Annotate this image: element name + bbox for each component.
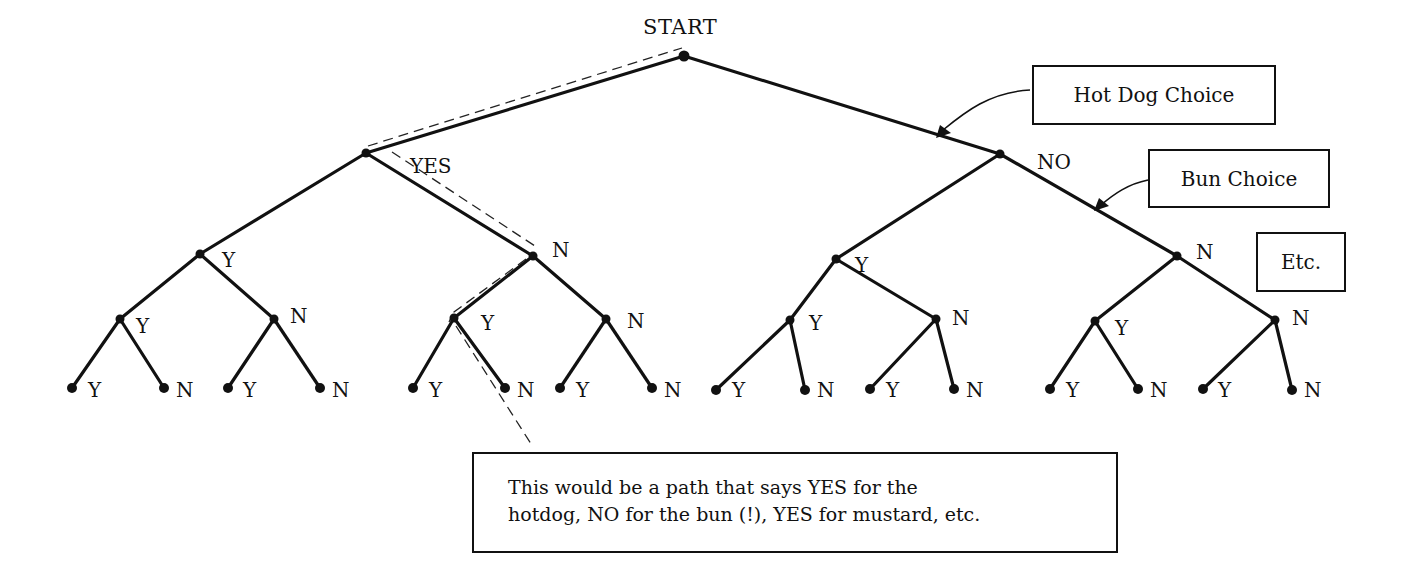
branch-label: N [290,306,308,326]
branch-label: Y [855,255,868,275]
branch-label: N [952,308,970,328]
leaf-label: N [966,380,984,400]
hot-dog-choice-box: Hot Dog Choice [1032,65,1276,125]
branch-label: N [1292,308,1310,328]
note-line-1: This would be a path that says YES for t… [508,474,1096,501]
branch-label: N [627,311,645,331]
branch-label: Y [136,316,149,336]
no-label: NO [1037,152,1071,172]
node-start [679,51,690,62]
leaf-label: N [1150,380,1168,400]
leaf-label: Y [1218,380,1231,400]
bun-arrow-icon [1101,180,1148,205]
leaf-label: Y [243,380,256,400]
leaf-label: N [1304,380,1322,400]
node-no [996,150,1005,159]
hot-dog-arrow-icon [943,90,1030,130]
branch-label: N [552,240,570,260]
start-label: START [643,17,717,38]
branch-label: Y [222,250,235,270]
branch-label: Y [1115,318,1128,338]
leaf-label: N [817,380,835,400]
note-line-2: hotdog, NO for the bun (!), YES for must… [508,501,1096,528]
leaf-label: Y [886,380,899,400]
leaf-label: Y [429,380,442,400]
leaf-label: Y [1066,380,1079,400]
leaf-label: N [332,380,350,400]
branch-label: Y [481,313,494,333]
branch-label: N [1196,242,1214,262]
leaf-label: Y [88,380,101,400]
branch-label: Y [809,313,822,333]
leaf-label: Y [732,380,745,400]
leaf-label: N [517,380,535,400]
bun-choice-box: Bun Choice [1148,149,1330,208]
path-explanation-note: This would be a path that says YES for t… [472,452,1118,553]
yes-label: YES [410,156,452,176]
leaf-label: N [664,380,682,400]
leaf-label: N [176,380,194,400]
node-yes [362,149,371,158]
leaf-label: Y [576,380,589,400]
etc-box: Etc. [1256,232,1346,292]
